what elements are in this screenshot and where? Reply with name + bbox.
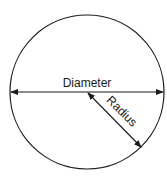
circle-diagram: Diameter Radius [0, 0, 167, 177]
radius-label: Radius [104, 93, 140, 129]
diameter-label: Diameter [63, 76, 112, 90]
